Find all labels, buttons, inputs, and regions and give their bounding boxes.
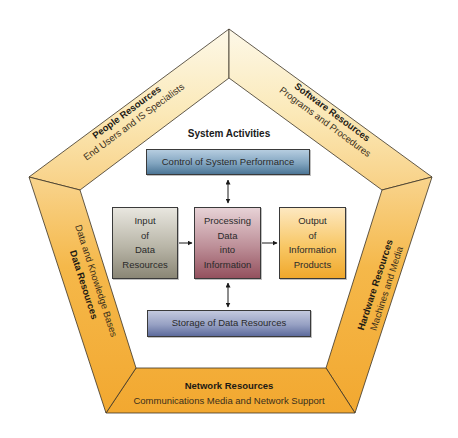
network-resources-subtitle: Communications Media and Network Support: [133, 395, 325, 406]
storage-of-data-resources-box: Storage of Data Resources: [147, 310, 311, 337]
output-of-information-products-box: Output of Information Products: [279, 207, 346, 279]
control-box-label: Control of System Performance: [162, 155, 295, 170]
processing-data-into-information-box: Processing Data into Information: [194, 207, 261, 279]
storage-box-label: Storage of Data Resources: [172, 316, 287, 331]
network-resources-title: Network Resources: [185, 380, 274, 391]
input-box-label: Input of Data Resources: [122, 214, 167, 272]
output-box-label: Output of Information Products: [289, 214, 337, 272]
processing-box-label: Processing Data into Information: [204, 214, 252, 272]
input-of-data-resources-box: Input of Data Resources: [112, 207, 178, 279]
system-activities-title: System Activities: [0, 128, 458, 139]
control-of-system-performance-box: Control of System Performance: [146, 149, 310, 175]
